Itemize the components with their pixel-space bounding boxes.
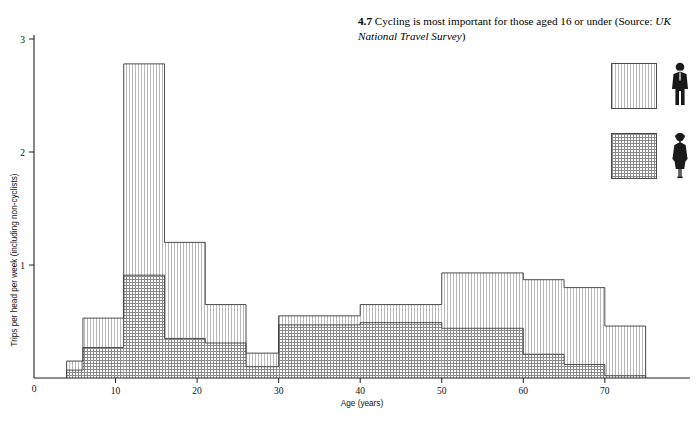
y-tick-label: 3 [20,35,25,45]
bar-segment [124,64,165,275]
bar-segment [205,343,246,378]
y-tick-label: 1 [20,261,25,271]
bar-segment [67,361,83,370]
chart-legend [611,63,697,185]
bar-segment [279,316,361,325]
x-tick-label: 20 [192,386,202,396]
bar-segment [564,288,605,365]
bar-segment [164,242,205,338]
woman-pictogram-icon [667,131,693,181]
bar-segment [164,338,205,378]
chart-plot-area: 0123 10203040506070 Trips per head per w… [0,0,698,421]
bar-segment [83,347,124,378]
bar-segment [246,353,279,367]
bar-segment [279,325,361,378]
bar-segment [124,275,165,378]
histogram-svg: 0123 10203040506070 Trips per head per w… [0,0,698,421]
bar-segment [360,305,442,323]
bar-segment [442,273,524,328]
bar-segment [564,364,605,378]
x-axis-label: Age (years) [341,399,384,408]
x-tick-label: 50 [437,386,447,396]
bar-segment [442,328,524,378]
bar-segment [605,326,646,376]
x-tick-label: 30 [274,386,284,396]
bar-segment [246,367,279,378]
man-pictogram-icon [667,61,693,111]
bar-segment [523,354,564,378]
legend-item-male[interactable] [611,63,697,110]
bar-segment [205,305,246,343]
x-axis-ticks: 10203040506070 [111,378,610,396]
bar-segment [83,318,124,347]
y-tick-label: 2 [20,148,25,158]
x-tick-label: 60 [519,386,529,396]
legend-swatch-female [611,133,657,179]
legend-swatch-male [611,63,657,109]
y-tick-label: 0 [32,384,37,394]
bar-segment [523,280,564,355]
y-axis-label: Trips per head per week (including non-c… [10,173,19,346]
x-tick-label: 70 [600,386,610,396]
figure-root: 4.7 Cycling is most important for those … [0,0,698,421]
bar-segment [67,370,83,378]
legend-item-female[interactable] [611,133,697,180]
x-tick-label: 10 [111,386,121,396]
x-tick-label: 40 [355,386,365,396]
bar-segment [360,323,442,378]
